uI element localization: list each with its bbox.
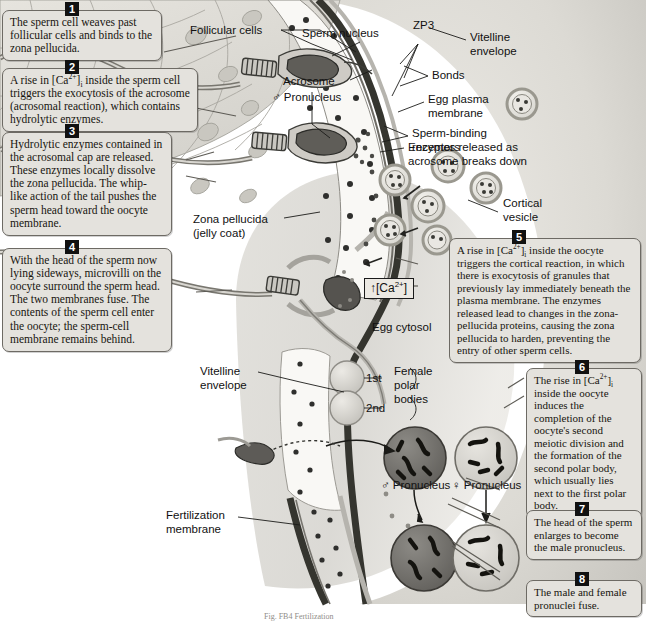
step-badge-6: 6 bbox=[575, 360, 589, 374]
label-female-pronucleus: ♀ Pronucleus bbox=[452, 478, 521, 492]
label-polar-body-1st: 1st bbox=[366, 371, 381, 385]
label-acrosome: Acrosome bbox=[283, 74, 335, 88]
figure-caption: Fig. FB4 Fertilization bbox=[264, 612, 334, 621]
step-badge-1: 1 bbox=[65, 2, 79, 16]
step-badge-5: 5 bbox=[512, 230, 526, 244]
label-polar-body-2nd: 2nd bbox=[366, 401, 385, 415]
label-vitelline-envelope-top: Vitelline envelope bbox=[470, 30, 517, 58]
step-callout-1[interactable]: 1 The sperm cell weaves past follicular … bbox=[2, 10, 162, 61]
label-enzymes-released: Enzymes released as acrosome breaks down bbox=[408, 140, 527, 168]
label-follicular-cells: Follicular cells bbox=[190, 23, 262, 37]
step-badge-3: 3 bbox=[65, 124, 79, 138]
step-callout-8[interactable]: 8 The male and female pronuclei fuse. bbox=[526, 580, 642, 617]
calcium-charge: 2+ bbox=[395, 280, 404, 289]
label-male-pronucleus-top: ♂ Pronucleus bbox=[272, 90, 341, 104]
label-zona-pellucida: Zona pellucida (jelly coat) bbox=[193, 212, 268, 240]
step-callout-5[interactable]: 5 A rise in [Ca2+]i inside the oocyte tr… bbox=[449, 238, 641, 363]
step-text-8: The male and female pronuclei fuse. bbox=[534, 586, 634, 611]
step-text-3: Hydrolytic enzymes contained in the acro… bbox=[10, 138, 164, 230]
step-badge-7: 7 bbox=[575, 502, 589, 516]
label-egg-cytosol: Egg cytosol bbox=[372, 320, 431, 334]
step-callout-7[interactable]: 7 The head of the sperm enlarges to beco… bbox=[526, 510, 642, 560]
step-callout-2[interactable]: 2 A rise in [Ca2+]i inside the sperm cel… bbox=[2, 68, 198, 132]
step-text-4: With the head of the sperm now lying sid… bbox=[10, 254, 164, 346]
step-text-7: The head of the sperm enlarges to become… bbox=[534, 516, 634, 554]
label-female-polar-bodies: Female polar bodies bbox=[394, 364, 432, 406]
step-callout-4[interactable]: 4 With the head of the sperm now lying s… bbox=[2, 248, 172, 352]
step-badge-4: 4 bbox=[65, 240, 79, 254]
label-male-pronucleus: ♂ Pronucleus bbox=[381, 478, 450, 492]
label-cortical-vesicle: Cortical vesicle bbox=[503, 196, 542, 224]
step-text-2: A rise in [Ca2+]i inside the sperm cell … bbox=[10, 74, 190, 126]
calcium-close: ] bbox=[404, 281, 407, 295]
label-zp3: ZP3 bbox=[413, 18, 434, 32]
step-badge-2: 2 bbox=[65, 60, 79, 74]
label-vitelline-envelope-bottom: Vitelline envelope bbox=[200, 364, 247, 392]
label-bonds: Bonds bbox=[432, 68, 465, 82]
step-text-1: The sperm cell weaves past follicular ce… bbox=[10, 16, 154, 55]
step-badge-8: 8 bbox=[575, 572, 589, 586]
step-text-6: The rise in [Ca2+]i inside the oocyte in… bbox=[534, 374, 634, 512]
label-sperm-nucleus: Sperm nucleus bbox=[302, 26, 379, 40]
label-fertilization-membrane: Fertilization membrane bbox=[166, 508, 225, 536]
figure-fertilization: 1 The sperm cell weaves past follicular … bbox=[0, 0, 646, 624]
calcium-species: [Ca bbox=[376, 281, 395, 295]
label-egg-plasma-membrane: Egg plasma membrane bbox=[428, 92, 489, 120]
calcium-increase-box: ↑[Ca2+] bbox=[364, 278, 414, 299]
step-text-5: A rise in [Ca2+]i inside the oocyte trig… bbox=[457, 244, 633, 357]
step-callout-6[interactable]: 6 The rise in [Ca2+]i inside the oocyte … bbox=[526, 368, 642, 518]
step-callout-3[interactable]: 3 Hydrolytic enzymes contained in the ac… bbox=[2, 132, 172, 236]
